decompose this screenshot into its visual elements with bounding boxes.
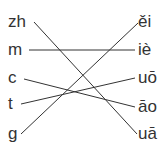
right-label-ie: iè (138, 40, 151, 60)
left-label-m: m (8, 40, 22, 60)
right-label-ei: ěi (138, 12, 151, 32)
left-label-c: c (8, 68, 17, 88)
left-label-g: g (8, 124, 17, 144)
left-label-zh: zh (8, 12, 26, 32)
line-t-uo (21, 78, 135, 104)
left-label-t: t (8, 94, 13, 114)
line-c-ao (24, 79, 135, 107)
right-label-ua: uā (138, 124, 157, 144)
line-g-ei (21, 23, 138, 134)
right-label-ao: āo (138, 97, 157, 117)
right-label-uo: uō (138, 68, 157, 88)
